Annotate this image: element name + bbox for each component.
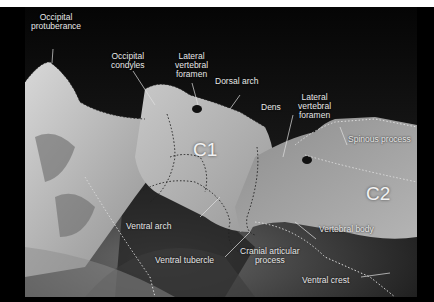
- label-line: foramen: [175, 70, 208, 79]
- radiograph-art: [25, 7, 417, 297]
- label-dorsal-arch: Dorsal arch: [215, 77, 258, 86]
- label-dens: Dens: [261, 103, 281, 112]
- label-occipital-condyles: Occipital condyles: [111, 52, 145, 70]
- label-line: protuberance: [31, 22, 81, 31]
- label-line: condyles: [111, 61, 145, 70]
- label-c2: C2: [366, 183, 390, 205]
- radiograph: [25, 7, 417, 297]
- label-lateral-vertebral-foramen-c1: Lateral vertebral foramen: [175, 52, 208, 79]
- label-spinous-process: Spinous process: [348, 135, 411, 144]
- label-occipital-protuberance: Occipital protuberance: [31, 13, 81, 31]
- label-line: foramen: [298, 111, 331, 120]
- label-vertebral-body: Vertebral body: [319, 225, 374, 234]
- label-lateral-vertebral-foramen-c2: Lateral vertebral foramen: [298, 93, 331, 120]
- label-cranial-articular-process: Cranial articular process: [240, 247, 300, 265]
- label-ventral-tubercle: Ventral tubercle: [155, 256, 214, 265]
- label-ventral-arch: Ventral arch: [126, 222, 171, 231]
- label-ventral-crest: Ventral crest: [302, 276, 349, 285]
- label-c1: C1: [193, 139, 217, 161]
- label-line: process: [240, 256, 300, 265]
